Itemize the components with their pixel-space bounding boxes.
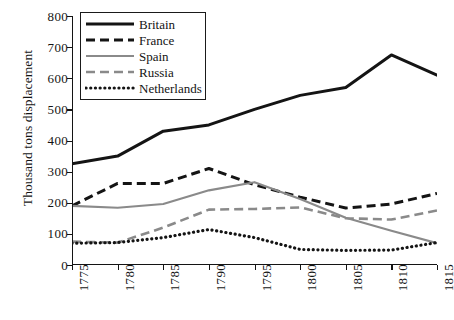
x-tick-mark	[437, 265, 438, 270]
legend-swatch-icon	[85, 66, 135, 78]
y-tick-mark	[67, 78, 72, 79]
legend-label: Russia	[139, 66, 174, 79]
y-tick-label: 400	[24, 134, 68, 147]
y-tick-label: 600	[24, 72, 68, 85]
chart-legend: BritainFranceSpainRussiaNetherlands	[80, 12, 206, 100]
y-tick-label: 100	[24, 227, 68, 240]
y-tick-mark	[67, 47, 72, 48]
y-tick-label: 800	[24, 10, 68, 23]
legend-item-france[interactable]: France	[85, 32, 201, 48]
y-tick-label: 700	[24, 41, 68, 54]
y-tick-mark	[67, 234, 72, 235]
y-tick-mark	[67, 172, 72, 173]
y-axis-line	[72, 16, 73, 265]
legend-label: Netherlands	[139, 82, 202, 95]
x-tick-label: 1795	[260, 264, 273, 316]
series-line-spain	[72, 182, 437, 243]
x-tick-label: 1815	[442, 264, 454, 316]
y-tick-label: 300	[24, 165, 68, 178]
x-tick-label: 1785	[168, 264, 181, 316]
legend-label: France	[139, 34, 174, 47]
y-tick-label: 200	[24, 196, 68, 209]
legend-item-russia[interactable]: Russia	[85, 64, 201, 80]
legend-swatch-icon	[85, 82, 135, 94]
x-tick-label: 1780	[123, 264, 136, 316]
legend-label: Spain	[139, 50, 169, 63]
y-tick-mark	[67, 16, 72, 17]
legend-item-britain[interactable]: Britain	[85, 16, 201, 32]
y-tick-mark	[67, 109, 72, 110]
x-tick-label: 1810	[396, 264, 409, 316]
legend-item-netherlands[interactable]: Netherlands	[85, 80, 201, 96]
y-tick-label: 0	[24, 259, 68, 272]
y-axis-tick-labels: 0100200300400500600700800	[18, 0, 68, 320]
x-tick-label: 1805	[351, 264, 364, 316]
legend-label: Britain	[139, 18, 175, 31]
legend-item-spain[interactable]: Spain	[85, 48, 201, 64]
legend-swatch-icon	[85, 34, 135, 46]
x-axis-tick-labels: 177517801785179017951800180518101815	[72, 268, 437, 320]
x-tick-label: 1775	[77, 264, 90, 316]
y-tick-mark	[67, 203, 72, 204]
series-line-netherlands	[72, 230, 437, 251]
y-tick-mark	[67, 141, 72, 142]
y-tick-label: 500	[24, 103, 68, 116]
x-tick-label: 1790	[214, 264, 227, 316]
line-chart: Thousand tons displacement 0100200300400…	[0, 0, 454, 320]
x-tick-label: 1800	[305, 264, 318, 316]
legend-swatch-icon	[85, 50, 135, 62]
legend-swatch-icon	[85, 18, 135, 30]
series-line-france	[72, 169, 437, 209]
